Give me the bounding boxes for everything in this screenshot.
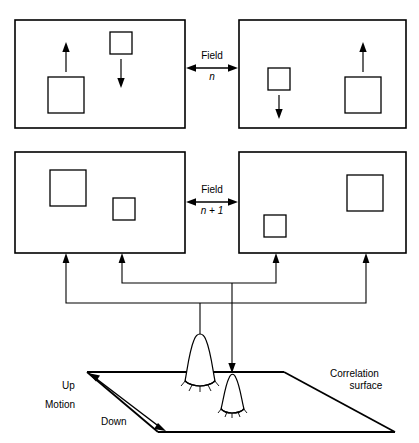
bus-routing xyxy=(63,253,370,365)
correlation-surface-label-line1: Correlation xyxy=(330,368,410,379)
motion-up-label: Up xyxy=(62,380,75,391)
field-n1-label: Field xyxy=(189,184,235,195)
motion-arrow-up xyxy=(359,42,366,72)
panel-border xyxy=(15,152,185,253)
panel-field-n-right xyxy=(239,20,406,128)
bus-arrowhead-3 xyxy=(273,253,280,263)
panel-border xyxy=(15,20,185,128)
bus-arrowhead-1 xyxy=(63,253,70,263)
panel-field-n1-left xyxy=(15,152,185,253)
motion-down-label: Down xyxy=(101,416,127,427)
bus-inner-path xyxy=(122,262,276,283)
motion-arrow-down xyxy=(117,59,124,88)
small-square xyxy=(264,215,286,237)
peak-up-large xyxy=(181,334,219,392)
large-square xyxy=(48,77,84,113)
motion-arrow-up xyxy=(62,42,69,72)
correlation-surface-label-line2: surface xyxy=(330,380,402,391)
bus-arrowhead-2 xyxy=(119,253,126,263)
peak-body xyxy=(185,334,215,386)
small-square xyxy=(113,198,135,220)
small-square xyxy=(268,68,290,90)
panel-field-n1-right xyxy=(239,152,406,253)
large-square xyxy=(347,175,383,211)
large-square xyxy=(50,170,86,206)
panel-field-n-left xyxy=(15,20,185,128)
field-n1-index: n + 1 xyxy=(186,205,238,216)
small-square xyxy=(110,32,132,54)
peak-body xyxy=(221,374,244,413)
motion-axis-arrow xyxy=(88,373,166,431)
field-n-label: Field xyxy=(189,50,235,61)
field-n-index: n xyxy=(189,71,235,82)
large-square xyxy=(345,77,381,113)
motion-arrow-down xyxy=(275,95,282,119)
panel-border xyxy=(239,152,406,253)
peak-down-small xyxy=(218,374,247,418)
bus-arrowhead-4 xyxy=(363,253,370,263)
motion-axis-label: Motion xyxy=(45,399,75,410)
